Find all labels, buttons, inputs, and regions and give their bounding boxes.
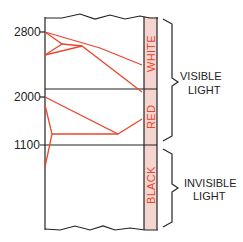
color-temperature-diagram: 2800 2000 1100 WHITE RED BLACK VISIBLE L… xyxy=(0,0,243,242)
visible-light-bracket xyxy=(163,19,178,141)
top-break-line xyxy=(45,14,158,19)
invisible-light-bracket xyxy=(163,149,178,227)
invisible-light-label-line2: LIGHT xyxy=(193,190,226,202)
strip-label-black: BLACK xyxy=(145,166,157,204)
visible-light-label-line2: LIGHT xyxy=(188,84,221,96)
tick-label-1100: 1100 xyxy=(14,138,40,152)
bottom-break-line xyxy=(45,226,158,230)
invisible-light-label-line1: INVISIBLE xyxy=(184,177,237,189)
tick-label-2800: 2800 xyxy=(14,25,41,39)
brackets xyxy=(163,19,178,227)
visible-light-label-line1: VISIBLE xyxy=(180,70,222,82)
strip-label-white: WHITE xyxy=(145,35,157,72)
strip-label-red: RED xyxy=(145,105,157,129)
spectrum-lines xyxy=(45,32,142,167)
tick-label-2000: 2000 xyxy=(14,90,41,104)
